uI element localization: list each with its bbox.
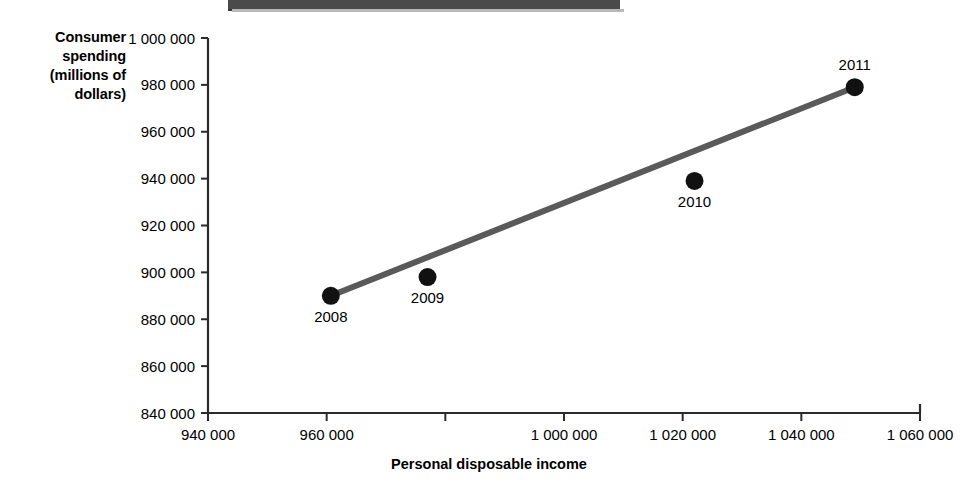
data-point-label: 2010 bbox=[678, 193, 711, 210]
x-axis-title: Personal disposable income bbox=[0, 456, 978, 472]
y-tick-label: 900 000 bbox=[141, 264, 195, 281]
data-point-label: 2011 bbox=[839, 56, 871, 73]
y-axis-ticks: 840 000860 000880 000900 000920 000940 0… bbox=[128, 30, 208, 422]
y-tick-label: 980 000 bbox=[141, 76, 195, 93]
scatter-plot: 840 000860 000880 000900 000920 000940 0… bbox=[0, 0, 978, 494]
x-tick-label: 960 000 bbox=[300, 426, 354, 443]
y-tick-label: 960 000 bbox=[141, 123, 195, 140]
y-tick-label: 1 000 000 bbox=[128, 30, 195, 47]
data-point-label: 2008 bbox=[314, 308, 347, 325]
y-tick-label: 840 000 bbox=[141, 405, 195, 422]
y-tick-label: 920 000 bbox=[141, 217, 195, 234]
x-tick-label: 1 000 000 bbox=[531, 426, 598, 443]
x-tick-label: 1 040 000 bbox=[768, 426, 835, 443]
y-tick-label: 940 000 bbox=[141, 170, 195, 187]
trendline-segment bbox=[331, 87, 855, 296]
x-tick-label: 1 020 000 bbox=[649, 426, 716, 443]
axis-lines bbox=[208, 38, 920, 413]
y-tick-label: 860 000 bbox=[141, 358, 195, 375]
x-tick-label: 940 000 bbox=[181, 426, 235, 443]
y-tick-label: 880 000 bbox=[141, 311, 195, 328]
trendline bbox=[331, 87, 855, 296]
data-point-marker[interactable] bbox=[419, 268, 437, 286]
data-point-marker[interactable] bbox=[846, 78, 864, 96]
data-point-marker[interactable] bbox=[686, 172, 704, 190]
data-point-marker[interactable] bbox=[322, 287, 340, 305]
x-axis-ticks: 940 000960 0001 000 0001 020 0001 040 00… bbox=[181, 413, 953, 443]
x-tick-label: 1 060 000 bbox=[887, 426, 954, 443]
chart-figure: Consumer spending (millions of dollars) … bbox=[0, 0, 978, 494]
data-point-label: 2009 bbox=[411, 289, 444, 306]
